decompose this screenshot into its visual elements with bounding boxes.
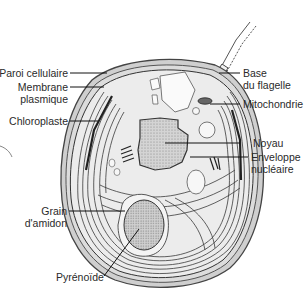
label-membrane-plasmique-line1: Membrane [18, 81, 68, 93]
label-pyrenoide: Pyrénoïde [56, 271, 104, 283]
label-grain-amidon-line2: d'amidon [25, 217, 67, 229]
pyrenoid [124, 200, 164, 250]
label-membrane-plasmique-line2: plasmique [20, 93, 68, 105]
mitochondrion [198, 98, 212, 104]
stray-curve [0, 146, 12, 157]
label-noyau: Noyau [253, 137, 283, 149]
label-grain-amidon-line1: Grain [41, 205, 67, 217]
label-base-flagelle-line1: Base [243, 67, 267, 79]
label-enveloppe-nucleaire-line2: nucléaire [251, 163, 294, 175]
label-paroi-cellulaire: Paroi cellulaire [0, 67, 68, 79]
label-enveloppe-nucleaire-line1: Enveloppe [251, 151, 301, 163]
vacuole [187, 170, 205, 194]
label-base-flagelle-line2: du flagelle [243, 79, 291, 91]
vacuole [199, 122, 215, 138]
label-mitochondrie: Mitochondrie [243, 98, 303, 110]
label-chloroplaste: Chloroplaste [9, 115, 68, 127]
